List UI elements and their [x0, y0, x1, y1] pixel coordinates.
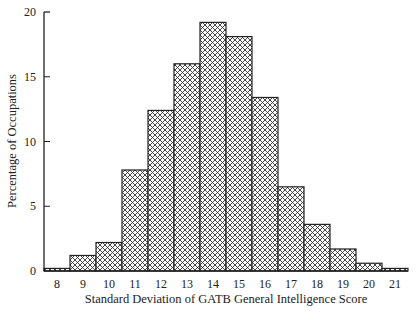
- x-axis: 89101112131415161718192021: [44, 271, 408, 291]
- bar-17: [278, 187, 304, 271]
- x-tick-label: 12: [155, 277, 167, 291]
- x-tick-label: 15: [233, 277, 245, 291]
- x-tick-label: 9: [80, 277, 86, 291]
- y-tick-label: 15: [24, 70, 36, 84]
- bar-19: [330, 249, 356, 271]
- x-tick-label: 10: [103, 277, 115, 291]
- y-tick-label: 5: [30, 199, 36, 213]
- x-tick-label: 17: [285, 277, 297, 291]
- x-tick-label: 20: [363, 277, 375, 291]
- bar-15: [226, 37, 252, 271]
- y-tick-label: 10: [24, 135, 36, 149]
- histogram-chart: 05101520 89101112131415161718192021 Stan…: [0, 0, 419, 312]
- y-tick-label: 20: [24, 5, 36, 19]
- bar-20: [356, 263, 382, 271]
- bar-16: [252, 97, 278, 271]
- x-tick-label: 14: [207, 277, 219, 291]
- x-tick-label: 8: [54, 277, 60, 291]
- x-tick-label: 16: [259, 277, 271, 291]
- x-tick-label: 13: [181, 277, 193, 291]
- bar-14: [200, 22, 226, 271]
- x-tick-label: 21: [389, 277, 401, 291]
- bar-13: [174, 64, 200, 271]
- x-tick-label: 19: [337, 277, 349, 291]
- y-axis-title: Percentage of Occupations: [5, 74, 19, 208]
- bar-11: [122, 170, 148, 271]
- x-axis-title: Standard Deviation of GATB General Intel…: [85, 292, 368, 306]
- bar-18: [304, 224, 330, 271]
- x-tick-label: 11: [129, 277, 141, 291]
- bar-12: [148, 110, 174, 271]
- y-tick-label: 0: [30, 264, 36, 278]
- x-tick-label: 18: [311, 277, 323, 291]
- bars-group: [44, 22, 408, 271]
- bar-9: [70, 255, 96, 271]
- y-axis: 05101520: [24, 5, 50, 278]
- bar-10: [96, 243, 122, 271]
